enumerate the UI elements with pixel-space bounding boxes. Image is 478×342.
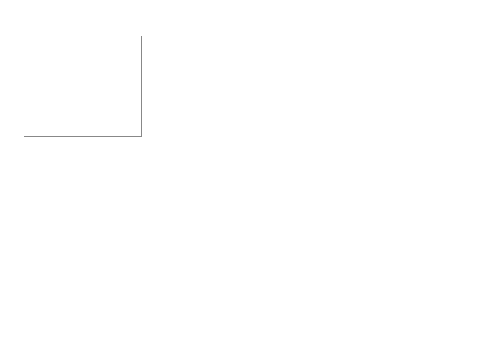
diagram [0,0,478,342]
